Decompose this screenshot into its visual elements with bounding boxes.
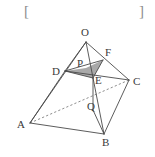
solid-edge-layer [30, 42, 129, 134]
vertex-label-e: E [95, 75, 102, 86]
pyramid-diagram-svg [0, 0, 155, 157]
vertex-label-p: P [77, 58, 83, 69]
vertex-label-f: F [105, 47, 111, 58]
edge-Q-B [93, 110, 104, 134]
vertex-label-b: B [102, 137, 109, 148]
geometry-figure: [ ] OABCDEFPQ [0, 0, 155, 157]
edge-A-B [30, 123, 104, 134]
edge-B-C [104, 80, 129, 134]
vertex-label-a: A [17, 119, 25, 130]
vertex-label-o: O [81, 27, 89, 38]
vertex-label-c: C [133, 76, 140, 87]
vertex-label-q: Q [87, 101, 95, 112]
vertex-label-d: D [52, 66, 60, 77]
